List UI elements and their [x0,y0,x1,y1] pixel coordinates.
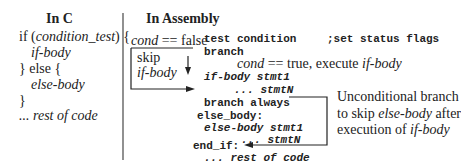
asm-else-stmtN: ... stmtN [241,134,300,146]
c-line-close-brace: } [19,93,26,109]
asm-end-if: end_if: [193,140,239,152]
asm-comment: ;set status flags [327,33,439,45]
c-heading: In C [46,11,73,27]
asm-else-label: else_body: [197,110,263,122]
asm-rest: ... rest of code [204,152,310,164]
note-line2: to skip else-body after [337,106,461,122]
c-line-rest: ... rest of code [19,108,98,124]
asm-heading: In Assembly [146,11,220,27]
note-line3: execution of if-body [337,122,450,138]
c-line-else: } else { [19,61,61,77]
asm-if-stmt1: if-body stmt1 [204,71,290,83]
skip-if-body-label: if-body [137,65,177,81]
true-arrow-head [185,67,191,75]
asm-else-stmt1: else-body stmt1 [204,122,303,134]
asm-branch-always: branch always [204,97,290,109]
cond-false-label: cond == false [131,33,207,49]
c-line-else-body: else-body [31,77,85,93]
skip-label: skip [137,50,160,66]
note-line1: Unconditional branch [337,89,459,105]
c-line-if-body: if-body [31,45,71,61]
skip-arrow-head [186,86,195,92]
asm-test: test condition [204,33,296,45]
asm-if-stmtN: ... stmtN [234,84,293,96]
cond-true-label: cond == true, execute if-body [237,56,402,72]
c-line-if: if (condition_test) { [19,29,130,45]
